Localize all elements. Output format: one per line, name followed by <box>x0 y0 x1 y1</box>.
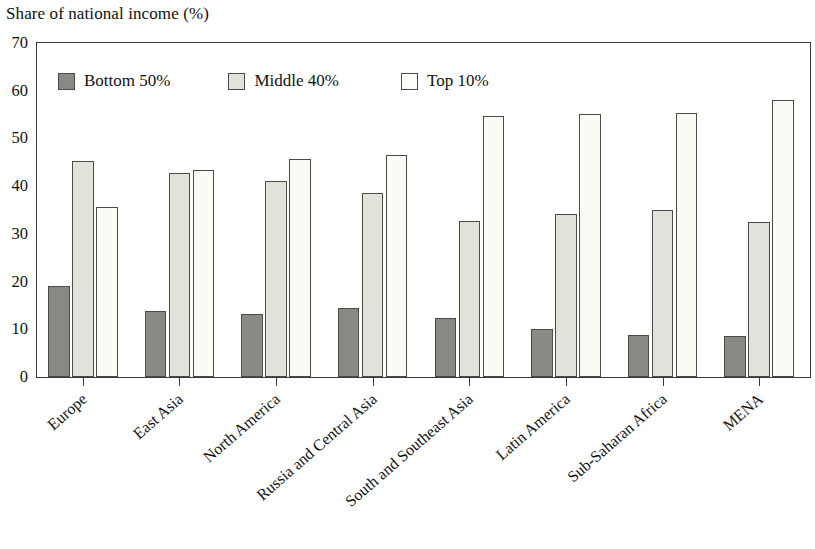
bar <box>169 173 191 377</box>
legend-entry: Middle 40% <box>228 71 339 91</box>
y-axis-tick-label: 50 <box>12 128 29 148</box>
x-axis-category-labels: EuropeEast AsiaNorth AmericaRussia and C… <box>0 378 815 549</box>
bar <box>652 210 674 377</box>
y-axis-tick-label: 20 <box>12 272 29 292</box>
bar <box>362 193 384 377</box>
y-axis-tick-label: 40 <box>12 176 29 196</box>
bar <box>72 161 94 377</box>
x-axis-category-label-text: Latin America <box>492 390 573 464</box>
legend-swatch-icon <box>401 73 418 90</box>
y-axis-labels: 010203040506070 <box>0 42 34 378</box>
bar <box>772 100 794 377</box>
bar <box>241 314 263 377</box>
bar <box>48 286 70 377</box>
legend-label: Top 10% <box>427 71 489 91</box>
y-axis-tick-label: 70 <box>12 33 29 53</box>
legend-swatch-icon <box>58 73 75 90</box>
legend-label: Middle 40% <box>254 71 339 91</box>
bar-chart: Share of national income (%) 01020304050… <box>0 0 815 549</box>
bar <box>748 222 770 377</box>
bar <box>676 113 698 377</box>
x-axis-category-label-text: MENA <box>720 390 767 434</box>
bar <box>265 181 287 377</box>
y-axis-tick-label: 10 <box>12 319 29 339</box>
chart-legend: Bottom 50%Middle 40%Top 10% <box>58 68 489 94</box>
chart-title: Share of national income (%) <box>6 4 209 24</box>
x-axis-category-label-text: East Asia <box>130 390 187 443</box>
y-axis-tick-label: 30 <box>12 224 29 244</box>
bar-group <box>628 43 698 377</box>
legend-swatch-icon <box>228 73 245 90</box>
bar <box>579 114 601 377</box>
x-axis-category-label-text: Sub-Saharan Africa <box>564 390 671 486</box>
bar <box>96 207 118 377</box>
bar <box>193 170 215 377</box>
x-axis-category-label-text: North America <box>200 390 284 466</box>
legend-label: Bottom 50% <box>84 71 170 91</box>
x-axis-category-label-text: Europe <box>44 390 91 434</box>
legend-entry: Bottom 50% <box>58 71 170 91</box>
y-axis-tick-label: 60 <box>12 81 29 101</box>
bar <box>145 311 167 377</box>
bar <box>289 159 311 377</box>
legend-entry: Top 10% <box>401 71 489 91</box>
bar <box>483 116 505 377</box>
bar <box>386 155 408 377</box>
